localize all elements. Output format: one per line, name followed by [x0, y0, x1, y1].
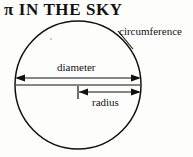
circle-diagram: [0, 0, 193, 157]
label-diameter: diameter: [57, 61, 95, 73]
diameter-arrow: [15, 74, 141, 81]
paper-speck-icon: [50, 38, 52, 40]
label-circumference: circumference: [119, 25, 182, 37]
label-radius: radius: [92, 96, 119, 108]
pi-in-the-sky-figure: π IN THE SKY circumference diameter radi…: [0, 0, 193, 157]
